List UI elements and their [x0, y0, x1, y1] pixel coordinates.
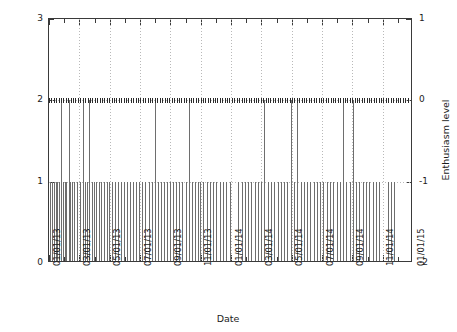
data-marker — [229, 98, 230, 103]
data-marker — [54, 98, 55, 103]
data-impulse — [320, 182, 321, 261]
data-impulse — [94, 182, 95, 261]
x-tick-mark-top — [307, 19, 308, 23]
data-marker — [311, 98, 312, 103]
data-marker — [376, 98, 377, 103]
data-marker — [290, 98, 291, 103]
data-marker — [287, 98, 288, 103]
data-marker — [92, 98, 93, 103]
data-marker — [90, 98, 91, 103]
data-marker — [239, 98, 240, 103]
data-impulse — [101, 182, 102, 261]
data-impulse — [230, 182, 231, 261]
data-marker — [85, 98, 86, 103]
x-tick-mark-top — [155, 19, 156, 23]
x-tick-label: 11/01/13 — [203, 228, 213, 266]
data-marker — [131, 98, 132, 103]
data-marker — [102, 98, 103, 103]
data-marker — [393, 98, 394, 103]
data-marker — [196, 98, 197, 103]
data-marker — [136, 98, 137, 103]
data-impulse — [291, 100, 292, 261]
data-impulse — [369, 182, 370, 261]
data-impulse — [337, 182, 338, 261]
data-marker — [331, 98, 332, 103]
data-impulse — [99, 182, 100, 261]
data-marker — [234, 98, 235, 103]
x-tick-label: 05/01/13 — [112, 228, 122, 266]
x-tick-label: 07/01/13 — [143, 228, 153, 266]
data-marker — [217, 98, 218, 103]
y-tick-label-left: 2 — [37, 94, 43, 104]
chart-figure: Frequency Enthusiasm level Date 0123-2-1… — [0, 0, 457, 332]
data-marker — [254, 98, 255, 103]
data-marker — [379, 98, 380, 103]
data-impulse — [346, 182, 347, 261]
data-impulse — [158, 182, 159, 261]
data-impulse — [200, 182, 201, 261]
gridline-vertical — [140, 19, 141, 261]
data-impulse — [353, 100, 354, 261]
data-marker — [350, 98, 351, 103]
x-tick-label: 01/01/14 — [234, 228, 244, 266]
data-marker — [347, 98, 348, 103]
data-impulse — [220, 182, 221, 261]
data-impulse — [164, 182, 165, 261]
data-marker — [355, 98, 356, 103]
data-marker — [364, 98, 365, 103]
data-impulse — [77, 182, 78, 261]
data-impulse — [255, 182, 256, 261]
data-marker — [119, 98, 120, 103]
data-impulse — [379, 182, 380, 261]
data-marker — [242, 98, 243, 103]
data-marker — [362, 98, 363, 103]
data-marker — [83, 98, 84, 103]
x-tick-label: 09/01/13 — [173, 228, 183, 266]
data-impulse — [284, 182, 285, 261]
data-marker — [400, 98, 401, 103]
data-marker — [51, 98, 52, 103]
data-marker — [177, 98, 178, 103]
data-marker — [232, 98, 233, 103]
data-marker — [302, 98, 303, 103]
data-marker — [56, 98, 57, 103]
data-marker — [162, 98, 163, 103]
data-marker — [78, 98, 79, 103]
data-impulse — [66, 182, 67, 261]
y-tick-label-right: -1 — [419, 176, 428, 186]
data-impulse — [376, 182, 377, 261]
data-impulse — [155, 100, 156, 261]
data-marker — [150, 98, 151, 103]
data-marker — [167, 98, 168, 103]
data-marker — [343, 98, 344, 103]
data-impulse — [198, 182, 199, 261]
data-marker — [184, 98, 185, 103]
y-tick-label-left: 1 — [37, 176, 43, 186]
data-marker — [215, 98, 216, 103]
data-marker — [213, 98, 214, 103]
x-tick-mark-bottom — [125, 257, 126, 261]
data-impulse — [195, 182, 196, 261]
data-impulse — [74, 182, 75, 261]
data-marker — [133, 98, 134, 103]
data-impulse — [189, 100, 190, 261]
data-impulse — [340, 182, 341, 261]
data-marker — [391, 98, 392, 103]
data-impulse — [133, 182, 134, 261]
data-marker — [49, 98, 50, 103]
data-impulse — [314, 182, 315, 261]
data-marker — [112, 98, 113, 103]
data-marker — [352, 98, 353, 103]
data-marker — [160, 98, 161, 103]
data-marker — [75, 98, 76, 103]
data-marker — [126, 98, 127, 103]
data-marker — [299, 98, 300, 103]
data-marker — [179, 98, 180, 103]
data-marker — [201, 98, 202, 103]
data-impulse — [307, 182, 308, 261]
data-marker — [367, 98, 368, 103]
data-marker — [174, 98, 175, 103]
data-impulse — [317, 182, 318, 261]
data-marker — [145, 98, 146, 103]
x-tick-label: 03/01/13 — [82, 228, 92, 266]
